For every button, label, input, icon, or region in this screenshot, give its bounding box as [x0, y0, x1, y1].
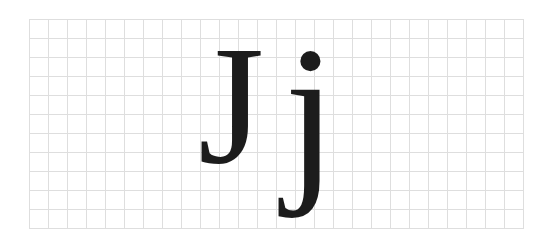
- lowercase-letter-j: j: [284, 18, 337, 208]
- letter-grid-background: [29, 19, 524, 229]
- uppercase-letter-j: J: [198, 20, 264, 190]
